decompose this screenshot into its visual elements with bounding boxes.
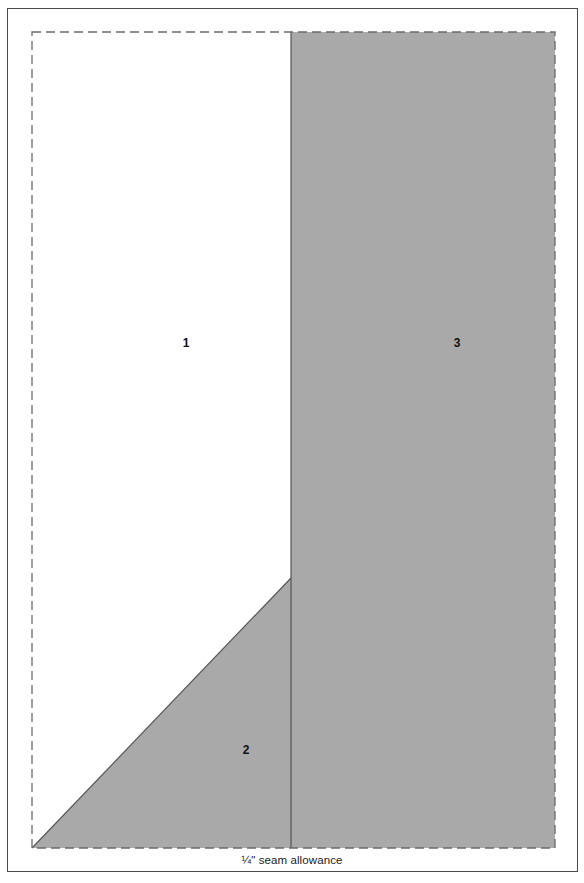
piece-number-2: 2 — [243, 744, 250, 756]
piece-number-3: 3 — [454, 337, 461, 349]
pattern-diagram-page: 1 2 3 ¼" seam allowance — [0, 0, 584, 883]
seam-allowance-caption: ¼" seam allowance — [241, 855, 342, 867]
illustration-frame — [7, 8, 578, 872]
piece-number-1: 1 — [183, 337, 190, 349]
